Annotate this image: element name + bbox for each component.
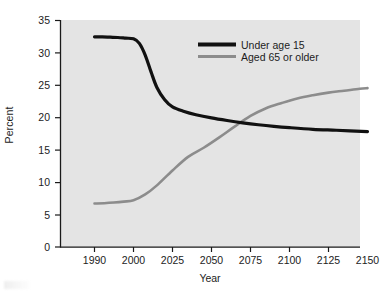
- y-tick-label-15: 15: [20, 145, 50, 156]
- legend-label-aged-65-or-older: Aged 65 or older: [241, 51, 319, 63]
- x-tick-label-2150: 2150: [346, 255, 384, 266]
- y-tick-label-20: 20: [20, 112, 50, 123]
- x-tick-label-2025: 2025: [151, 255, 195, 266]
- y-tick-label-10: 10: [20, 177, 50, 188]
- legend-label-under-age-15: Under age 15: [241, 39, 305, 51]
- y-tick-label-30: 30: [20, 48, 50, 59]
- y-axis-ticks: [55, 21, 60, 248]
- x-tick-label-2000: 2000: [112, 255, 156, 266]
- x-tick-label-2125: 2125: [307, 255, 351, 266]
- y-tick-label-5: 5: [20, 210, 50, 221]
- x-tick-label-1990: 1990: [73, 255, 117, 266]
- x-tick-label-2050: 2050: [190, 255, 234, 266]
- x-tick-label-2075: 2075: [229, 255, 273, 266]
- x-axis-title: Year: [60, 272, 360, 284]
- x-tick-label-2100: 2100: [268, 255, 312, 266]
- y-tick-label-35: 35: [20, 15, 50, 26]
- scan-artifact: [4, 281, 30, 289]
- y-tick-label-0: 0: [20, 242, 50, 253]
- y-tick-label-25: 25: [20, 80, 50, 91]
- y-axis-title: Percent: [3, 95, 15, 155]
